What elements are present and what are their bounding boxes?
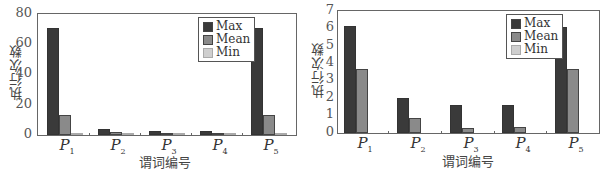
chart-left: 执行次数 80 60 40 20 0 Max Mean Min	[0, 0, 300, 172]
bar-min-p5	[275, 133, 287, 135]
x-tick-label-p5: P5	[556, 134, 596, 154]
bar-mean-p3	[462, 128, 474, 133]
bar-mean-p1	[59, 115, 71, 135]
bar-max-p1	[47, 28, 59, 135]
y-tick: 0	[10, 126, 32, 141]
bar-mean-p3	[161, 133, 173, 135]
bar-max-p3	[149, 131, 161, 135]
x-tick	[388, 131, 389, 134]
x-tick	[494, 131, 495, 134]
x-tick-label-p1: P1	[47, 136, 87, 156]
swatch-mean	[203, 35, 213, 45]
y-tick: 3	[312, 71, 334, 86]
legend: Max Mean Min	[198, 17, 255, 62]
y-tick: 0	[312, 124, 334, 139]
y-tick: 80	[10, 5, 32, 20]
swatch-max	[203, 22, 213, 32]
x-tick	[89, 133, 90, 136]
plot-area: Max Mean Min	[337, 10, 600, 134]
bar-max-p2	[397, 98, 409, 133]
bar-mean-p2	[409, 118, 421, 133]
chart-right: 执行次数 7 6 5 4 3 2 1 0 Max Mean Min P1 P2 …	[300, 0, 602, 172]
y-tick: 1	[312, 106, 334, 121]
legend-label: Min	[216, 46, 240, 59]
y-tick: 20	[10, 96, 32, 111]
bar-max-p4	[200, 131, 212, 135]
legend-label: Min	[524, 43, 548, 56]
y-tick: 40	[10, 65, 32, 80]
y-tick: 2	[312, 89, 334, 104]
x-axis-label: 谓词编号	[105, 152, 225, 171]
plot-area: Max Mean Min	[37, 13, 297, 136]
x-tick	[441, 131, 442, 134]
bar-min-p4	[224, 133, 236, 135]
swatch-max	[511, 19, 521, 29]
x-tick-label-p5: P5	[251, 136, 291, 156]
x-tick	[140, 133, 141, 136]
x-axis-label: 谓词编号	[408, 151, 528, 170]
x-tick	[191, 133, 192, 136]
legend-item-min: Min	[203, 46, 250, 59]
x-tick	[242, 133, 243, 136]
y-tick: 60	[10, 35, 32, 50]
bar-max-p1	[344, 26, 356, 133]
x-tick	[546, 131, 547, 134]
bar-mean-p5	[567, 69, 579, 133]
bar-max-p3	[450, 105, 462, 133]
bar-min-p2	[122, 133, 134, 135]
bar-max-p2	[98, 129, 110, 135]
swatch-min	[511, 45, 521, 55]
legend: Max Mean Min	[506, 14, 563, 59]
bar-min-p3	[173, 133, 185, 135]
bar-mean-p1	[356, 69, 368, 133]
bar-mean-p2	[110, 132, 122, 135]
bar-mean-p4	[212, 133, 224, 135]
x-tick-label-p1: P1	[345, 134, 385, 154]
y-tick: 4	[312, 54, 334, 69]
y-tick: 5	[312, 37, 334, 52]
y-tick: 6	[312, 19, 334, 34]
legend-item-min: Min	[511, 43, 558, 56]
y-tick: 7	[312, 2, 334, 17]
bar-max-p4	[502, 105, 514, 133]
swatch-mean	[511, 32, 521, 42]
bar-mean-p4	[514, 127, 526, 133]
bar-min-p1	[71, 133, 83, 135]
swatch-min	[203, 48, 213, 58]
bar-mean-p5	[263, 115, 275, 135]
